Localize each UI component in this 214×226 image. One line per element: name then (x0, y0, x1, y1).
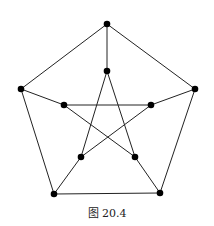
graph-edge (107, 71, 135, 157)
graph-edge (135, 157, 160, 193)
graph-edge (107, 24, 195, 89)
graph-edge (21, 89, 54, 194)
petersen-graph (0, 0, 214, 226)
graph-edge (54, 157, 81, 194)
graph-vertex (18, 86, 25, 93)
graph-edge (81, 71, 107, 157)
figure-caption: 图 20.4 (0, 204, 214, 220)
graph-nodes (18, 21, 199, 198)
graph-edge (151, 89, 195, 105)
graph-edge (21, 89, 64, 105)
graph-vertex (148, 102, 155, 109)
graph-edge (54, 193, 160, 194)
graph-vertex (104, 21, 111, 28)
graph-edges (21, 24, 195, 194)
graph-edge (81, 105, 151, 157)
graph-edge (21, 24, 107, 89)
graph-vertex (61, 102, 68, 109)
graph-edge (160, 89, 195, 193)
graph-vertex (104, 68, 111, 75)
graph-vertex (51, 191, 58, 198)
graph-vertex (132, 154, 139, 161)
graph-vertex (78, 154, 85, 161)
graph-vertex (192, 86, 199, 93)
graph-vertex (157, 190, 164, 197)
graph-edge (64, 105, 135, 157)
